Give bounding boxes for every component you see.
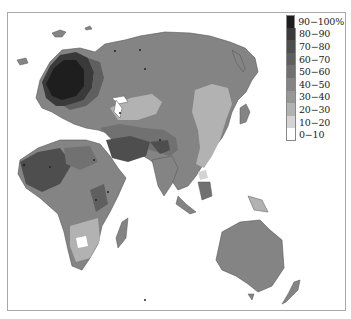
map-legend: 90−100% 80−90 70−80 60−70 50−60 40−50 30… <box>286 15 344 141</box>
legend-label: 90−100% <box>298 16 344 27</box>
legend-item: 50−60 <box>286 65 344 78</box>
legend-label: 40−50 <box>299 79 330 90</box>
legend-item: 40−50 <box>286 78 344 91</box>
legend-label: 60−70 <box>299 54 330 65</box>
legend-label: 80−90 <box>299 28 330 39</box>
legend-label: 30−40 <box>299 91 330 102</box>
new-guinea-shape <box>248 196 268 212</box>
legend-swatch <box>286 15 295 28</box>
legend-item: 80−90 <box>286 28 344 41</box>
legend-swatch <box>286 65 296 78</box>
legend-swatch <box>286 116 296 129</box>
australia-shape <box>216 220 284 292</box>
legend-item: 90−100% <box>286 15 344 28</box>
legend-swatch <box>286 28 296 41</box>
madagascar-shape <box>116 218 128 248</box>
iceland-shape <box>17 58 28 65</box>
legend-label: 0−10 <box>299 129 324 140</box>
island-shape <box>52 30 66 37</box>
legend-item: 70−80 <box>286 40 344 53</box>
legend-label: 20−30 <box>299 104 330 115</box>
legend-item: 20−30 <box>286 103 344 116</box>
legend-label: 50−60 <box>299 66 330 77</box>
legend-swatch <box>286 91 296 104</box>
japan-shape <box>240 104 250 124</box>
legend-item: 0−10 <box>286 128 344 141</box>
legend-label: 10−20 <box>299 117 330 128</box>
legend-swatch <box>286 128 296 141</box>
legend-swatch <box>286 53 296 66</box>
legend-swatch <box>286 78 296 91</box>
legend-item: 10−20 <box>286 116 344 129</box>
legend-label: 70−80 <box>299 41 330 52</box>
new-zealand-shape <box>282 280 300 304</box>
legend-swatch <box>286 40 296 53</box>
legend-item: 60−70 <box>286 53 344 66</box>
legend-item: 30−40 <box>286 91 344 104</box>
legend-swatch <box>286 103 296 116</box>
